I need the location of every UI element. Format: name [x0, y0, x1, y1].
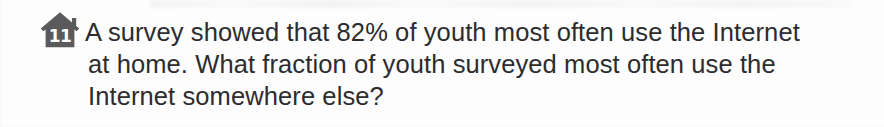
question-text: A survey showed that 82% of youth most o… [85, 16, 845, 112]
question-line-1: A survey showed that 82% of youth most o… [85, 16, 845, 48]
question-line-2: at home. What fraction of youth surveyed… [88, 48, 845, 80]
question-line-3: Internet somewhere else? [88, 80, 845, 112]
exercise-item: 11 A survey showed that 82% of youth mos… [0, 0, 884, 127]
scanned-page: 11 A survey showed that 82% of youth mos… [0, 0, 884, 127]
exercise-number-label: 11 [40, 11, 80, 48]
exercise-number-badge: 11 [40, 11, 80, 48]
